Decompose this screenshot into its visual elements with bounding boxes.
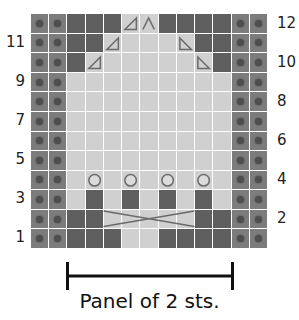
border-bobble-cell	[250, 151, 267, 170]
stitch-cell-cable	[140, 210, 157, 229]
yarn-over-circle-icon	[195, 171, 212, 190]
stitch-cell-dark	[177, 229, 194, 248]
border-bobble-cell	[232, 14, 249, 33]
bobble-dot-icon	[237, 39, 244, 46]
stitch-cell-tri-right	[177, 34, 194, 53]
bobble-dot-icon	[54, 20, 61, 27]
bobble-dot-icon	[255, 118, 262, 125]
stitch-cell-light	[104, 151, 121, 170]
stitch-cell-light	[195, 73, 212, 92]
stitch-cell-circle	[86, 171, 103, 190]
bobble-dot-icon	[36, 137, 43, 144]
stitch-cell-dark	[104, 229, 121, 248]
stitch-cell-light	[140, 73, 157, 92]
stitch-cell-light	[104, 190, 121, 209]
bobble-dot-icon	[255, 20, 262, 27]
border-bobble-cell	[31, 229, 48, 248]
bobble-dot-icon	[237, 98, 244, 105]
border-bobble-cell	[232, 190, 249, 209]
stitch-cell-light	[140, 229, 157, 248]
stitch-cell-light	[104, 73, 121, 92]
border-bobble-cell	[250, 73, 267, 92]
row-label-left: 7	[15, 113, 25, 128]
border-bobble-cell	[232, 210, 249, 229]
stitch-cell-light	[177, 53, 194, 72]
border-bobble-cell	[31, 92, 48, 111]
stitch-cell-light	[159, 151, 176, 170]
border-bobble-cell	[49, 229, 66, 248]
bobble-dot-icon	[237, 157, 244, 164]
bobble-dot-icon	[36, 196, 43, 203]
stitch-cell-light	[104, 132, 121, 151]
row-label-left: 3	[15, 191, 25, 206]
stitch-cell-light	[213, 190, 230, 209]
stitch-cell-dark	[104, 14, 121, 33]
stitch-cell-dark	[195, 34, 212, 53]
bobble-dot-icon	[237, 79, 244, 86]
stitch-cell-light	[122, 132, 139, 151]
stitch-cell-dark	[67, 229, 84, 248]
stitch-cell-dark	[177, 14, 194, 33]
stitch-cell-light	[177, 171, 194, 190]
stitch-cell-light	[67, 112, 84, 131]
stitch-cell-dark	[159, 190, 176, 209]
yarn-over-circle-icon	[159, 171, 176, 190]
border-bobble-cell	[49, 151, 66, 170]
stitch-cell-light	[213, 112, 230, 131]
bobble-dot-icon	[255, 216, 262, 223]
bobble-dot-icon	[255, 39, 262, 46]
stitch-cell-light	[140, 171, 157, 190]
bobble-dot-icon	[36, 157, 43, 164]
bobble-dot-icon	[36, 118, 43, 125]
stitch-cell-light	[67, 190, 84, 209]
stitch-cell-light	[177, 132, 194, 151]
bobble-dot-icon	[54, 176, 61, 183]
stitch-cell-light	[159, 34, 176, 53]
stitch-cell-dark	[195, 190, 212, 209]
bobble-dot-icon	[237, 196, 244, 203]
stitch-cell-dark	[213, 210, 230, 229]
bobble-dot-icon	[54, 79, 61, 86]
left-decrease-triangle-icon	[122, 14, 139, 33]
row-label-left: 5	[15, 152, 25, 167]
border-bobble-cell	[31, 14, 48, 33]
border-bobble-cell	[232, 53, 249, 72]
bobble-dot-icon	[237, 137, 244, 144]
border-bobble-cell	[232, 171, 249, 190]
border-bobble-cell	[250, 53, 267, 72]
stitch-cell-tri-left	[86, 53, 103, 72]
stitch-cell-light	[104, 112, 121, 131]
stitch-cell-light	[140, 112, 157, 131]
row-label-right: 4	[277, 172, 287, 187]
row-label-right: 2	[277, 211, 287, 226]
bobble-dot-icon	[237, 216, 244, 223]
border-bobble-cell	[31, 151, 48, 170]
bobble-dot-icon	[54, 39, 61, 46]
stitch-cell-light	[213, 151, 230, 170]
bobble-dot-icon	[36, 79, 43, 86]
border-bobble-cell	[250, 132, 267, 151]
border-bobble-cell	[232, 132, 249, 151]
border-bobble-cell	[250, 14, 267, 33]
stitch-cell-dark	[86, 34, 103, 53]
stitch-cell-light	[140, 190, 157, 209]
bobble-dot-icon	[255, 196, 262, 203]
yarn-over-circle-icon	[86, 171, 103, 190]
bobble-dot-icon	[54, 196, 61, 203]
stitch-cell-light	[195, 92, 212, 111]
bobble-dot-icon	[54, 137, 61, 144]
border-bobble-cell	[49, 112, 66, 131]
stitch-cell-light	[159, 112, 176, 131]
bobble-dot-icon	[255, 176, 262, 183]
left-decrease-triangle-icon	[104, 34, 121, 53]
row-label-left: 1	[15, 230, 25, 245]
bobble-dot-icon	[237, 176, 244, 183]
stitch-cell-dark	[67, 53, 84, 72]
bobble-dot-icon	[237, 20, 244, 27]
border-bobble-cell	[49, 132, 66, 151]
border-bobble-cell	[31, 171, 48, 190]
stitch-cell-light	[67, 151, 84, 170]
stitch-cell-cable	[104, 210, 121, 229]
border-bobble-cell	[250, 112, 267, 131]
bobble-dot-icon	[237, 235, 244, 242]
